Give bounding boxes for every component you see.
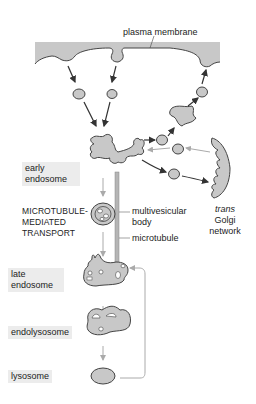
- arrows-dark: [68, 66, 208, 182]
- late-endosome-shape: [84, 254, 128, 286]
- lysosome-shape: [91, 368, 115, 384]
- multivesicular-body-shape: [91, 203, 115, 225]
- label-tgn-line3: network: [204, 226, 246, 237]
- vesicles: [73, 87, 208, 179]
- label-tgn-line2: Golgi: [204, 215, 246, 226]
- label-mvb-line2: body: [132, 217, 187, 228]
- label-lysosome: lysosome: [8, 370, 52, 383]
- microtubule-shape: [115, 172, 119, 272]
- label-early-endosome-line2: endosome: [25, 174, 77, 185]
- label-mt-line2: MEDIATED: [22, 217, 88, 228]
- label-late-endosome-line1: late: [11, 269, 61, 280]
- label-mvb-line1: multivesicular: [132, 206, 187, 217]
- label-early-endosome-line1: early: [25, 163, 77, 174]
- plasma-membrane: [35, 36, 220, 67]
- label-late-endosome: late endosome: [8, 268, 64, 292]
- label-tgn-line1: trans: [204, 204, 246, 215]
- early-endosome-shape: [90, 134, 144, 163]
- label-microtubule-mediated-transport: MICROTUBULE- MEDIATED TRANSPORT: [22, 206, 88, 239]
- trans-golgi-network-shape: [211, 138, 230, 198]
- label-mt-line1: MICROTUBULE-: [22, 206, 88, 217]
- diagram-canvas: [0, 0, 256, 404]
- label-mt-line3: TRANSPORT: [22, 228, 88, 239]
- label-microtubule: microtubule: [132, 233, 179, 244]
- label-plasma-membrane: plasma membrane: [123, 27, 198, 38]
- label-trans-golgi-network: trans Golgi network: [204, 204, 246, 237]
- endolysosome-shape: [87, 306, 130, 335]
- label-early-endosome: early endosome: [22, 162, 80, 186]
- label-late-endosome-line2: endosome: [11, 280, 61, 291]
- recycling-endosome: [170, 106, 196, 126]
- label-endolysosome: endolysosome: [8, 326, 72, 339]
- label-multivesicular-body: multivesicular body: [132, 206, 187, 228]
